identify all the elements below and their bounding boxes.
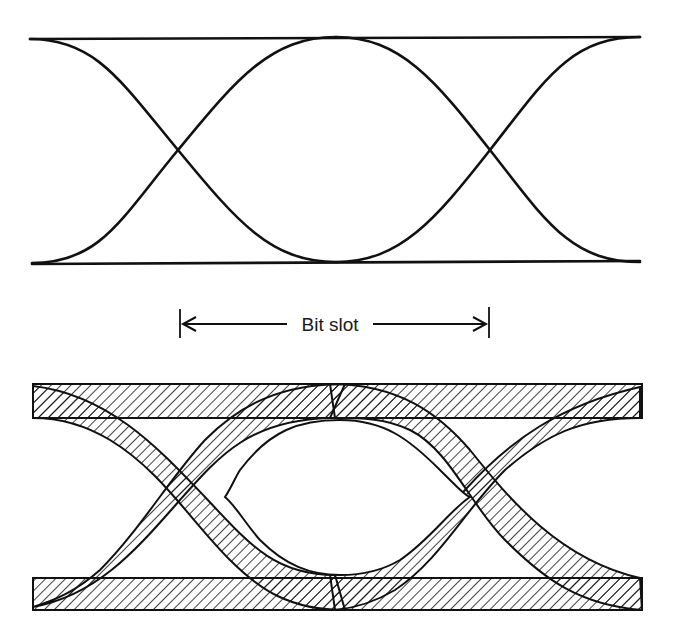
trace-falling-2 (336, 37, 640, 262)
degraded-eye-diagram (33, 384, 642, 610)
bit-slot-label: Bit slot (301, 314, 359, 335)
trace-falling-1 (30, 39, 336, 262)
eye-diagram-figure: Bit slot const data = JSON.parse(documen… (0, 0, 680, 636)
trace-rising-1 (32, 37, 336, 263)
ideal-eye-diagram (30, 37, 640, 264)
